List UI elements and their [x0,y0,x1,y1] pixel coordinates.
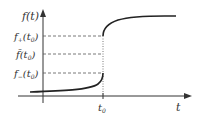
f-bar-label: f̄(t0) [15,49,35,61]
curve-right-branch [103,16,176,36]
f-plus-label: f+(t0) [13,31,38,43]
f-minus-label: f−(t0) [13,68,38,80]
curve-left-branch [30,73,103,92]
y-axis-label: f(t) [21,10,39,23]
x-axis-arrow-icon [184,93,192,99]
x-axis-label: t [176,101,181,114]
t0-label: t0 [98,102,106,114]
y-axis-arrow-icon [40,9,46,17]
diagram-canvas: f(t) f+(t0) f̄(t0) f−(t0) t0 t [0,0,198,119]
